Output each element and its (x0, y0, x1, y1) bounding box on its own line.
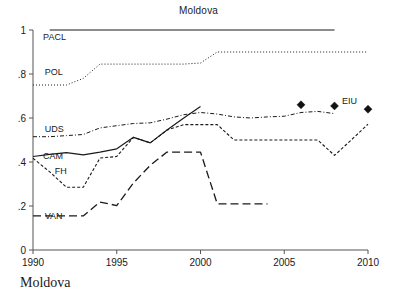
series-line-pol (33, 52, 368, 85)
series-label-van: VAN (45, 211, 63, 221)
series-label-pol: POL (45, 67, 63, 77)
y-tick-label: .8 (18, 69, 27, 80)
eiu-marker-point (297, 101, 305, 109)
eiu-marker-point (331, 102, 339, 110)
series-label-uds: UDS (45, 124, 64, 134)
y-axis-tick-labels: 0.2.4.6.81 (18, 25, 27, 256)
x-axis-tick-labels: 19901995200020052010 (22, 257, 380, 268)
x-tick-label: 2005 (273, 257, 296, 268)
series-line-uds (33, 111, 335, 136)
series-label-fh: FH (55, 166, 67, 176)
series-label-pacl: PACL (43, 32, 66, 42)
y-tick-label: 0 (20, 245, 26, 256)
chart-figure: Moldova 0.2.4.6.81 19901995200020052010 … (0, 0, 397, 302)
chart-marker-points (297, 101, 372, 113)
y-tick-label: 1 (20, 25, 26, 36)
chart-series-labels: PACLPOLUDSCAMFHVANEIU (43, 32, 357, 221)
eiu-marker-point (364, 105, 372, 113)
chart-plot-area: 0.2.4.6.81 19901995200020052010 PACLPOLU… (0, 0, 397, 302)
chart-series-lines (33, 30, 368, 216)
x-tick-label: 2000 (189, 257, 212, 268)
x-tick-label: 1995 (106, 257, 129, 268)
series-label-cam: CAM (43, 151, 63, 161)
figure-caption: Moldova (20, 275, 71, 291)
y-tick-label: .4 (18, 157, 27, 168)
series-label-eiu: EIU (342, 96, 357, 106)
series-line-van (33, 152, 268, 216)
x-tick-label: 2010 (357, 257, 380, 268)
x-tick-label: 1990 (22, 257, 45, 268)
chart-tick-marks (29, 30, 368, 254)
y-tick-label: .2 (18, 201, 27, 212)
series-line-fh (33, 124, 368, 187)
y-tick-label: .6 (18, 113, 27, 124)
